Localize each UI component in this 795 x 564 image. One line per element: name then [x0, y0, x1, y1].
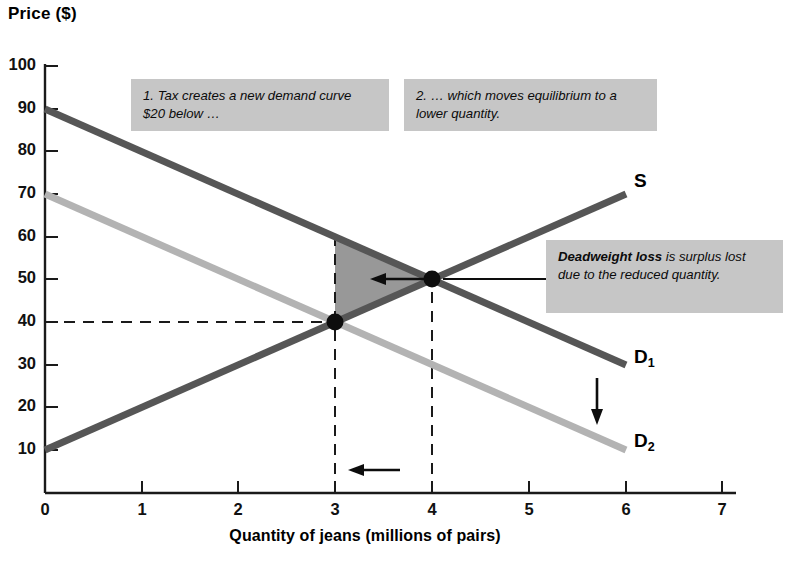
y-tick-label-40: 40: [2, 311, 36, 330]
x-tick-label-5: 5: [514, 500, 544, 519]
y-tick-label-90: 90: [2, 98, 36, 117]
demand-shift-arrow: [591, 378, 603, 425]
x-tick-label-1: 1: [127, 500, 157, 519]
y-tick-label-80: 80: [2, 140, 36, 159]
y-tick-label-70: 70: [2, 183, 36, 202]
quantity-decrease-arrow: [348, 464, 400, 476]
x-axis-title: Quantity of jeans (millions of pairs): [0, 527, 730, 545]
callout-deadweight-loss-bold: Deadweight loss: [558, 249, 662, 264]
callout-moves-equilibrium: 2. … which moves equilibrium to a lower …: [404, 79, 657, 131]
callout-deadweight-loss: Deadweight loss is surplus lost due to t…: [546, 240, 783, 313]
curve-label-d1-sub: 1: [648, 356, 655, 370]
x-tick-label-4: 4: [417, 500, 447, 519]
curve-label-s: S: [634, 170, 647, 192]
equilibrium-point-after-tax: [327, 314, 344, 331]
x-tick-label-0: 0: [30, 500, 60, 519]
y-tick-label-20: 20: [2, 396, 36, 415]
y-tick-label-100: 100: [2, 55, 36, 74]
curve-label-s-text: S: [634, 170, 647, 191]
curve-label-d2: D2: [634, 430, 655, 452]
y-tick-label-10: 10: [2, 439, 36, 458]
callout-tax-creates-demand-curve: 1. Tax creates a new demand curve $20 be…: [131, 79, 389, 131]
curve-label-d1: D1: [634, 346, 655, 368]
x-tick-label-6: 6: [611, 500, 641, 519]
y-tick-label-60: 60: [2, 226, 36, 245]
y-tick-label-50: 50: [2, 268, 36, 287]
y-tick-label-30: 30: [2, 354, 36, 373]
curve-label-d1-text: D: [634, 346, 648, 367]
chart-figure: Price ($): [0, 0, 795, 564]
x-tick-label-3: 3: [320, 500, 350, 519]
y-axis-ticks: [45, 66, 58, 450]
curve-label-d2-sub: 2: [648, 440, 655, 454]
x-tick-label-2: 2: [223, 500, 253, 519]
x-tick-label-7: 7: [707, 500, 737, 519]
curve-label-d2-text: D: [634, 430, 648, 451]
